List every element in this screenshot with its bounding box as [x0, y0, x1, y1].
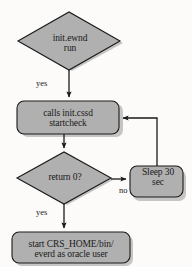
node-startcheck-shape [17, 101, 119, 134]
flowchart-canvas [0, 0, 192, 267]
node-start-shape [18, 12, 120, 70]
flowchart-diagram: init.ewnd run calls init.cssd startcheck… [0, 0, 192, 267]
node-sleep-shape [130, 166, 183, 197]
edge-sleep-to-startcheck [123, 118, 157, 166]
node-final-shape [12, 232, 130, 263]
node-decision-shape [17, 152, 111, 204]
